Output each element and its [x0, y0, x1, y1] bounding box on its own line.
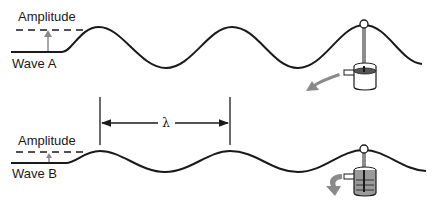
- wave-a-curve: [11, 25, 422, 68]
- wave-diagram: Amplitude Wave A λ Amplitude Wa: [0, 0, 436, 205]
- wave-a-amplitude-label: Amplitude: [18, 9, 76, 24]
- wave-a-label: Wave A: [12, 56, 57, 71]
- wavelength-lambda-label: λ: [162, 116, 170, 130]
- wave-b-rotation-arrow-icon: [326, 174, 342, 196]
- wave-a-amplitude-arrowhead-icon: [44, 30, 52, 37]
- wave-b-amplitude-label: Amplitude: [18, 133, 76, 148]
- wave-b-group: λ Amplitude Wave B: [11, 97, 426, 196]
- wave-b-label: Wave B: [12, 166, 57, 181]
- wave-a-group: Amplitude Wave A: [11, 9, 422, 91]
- wave-b-amplitude-arrowhead-icon: [46, 153, 52, 158]
- wave-a-rotation-arrow-icon: [306, 73, 340, 91]
